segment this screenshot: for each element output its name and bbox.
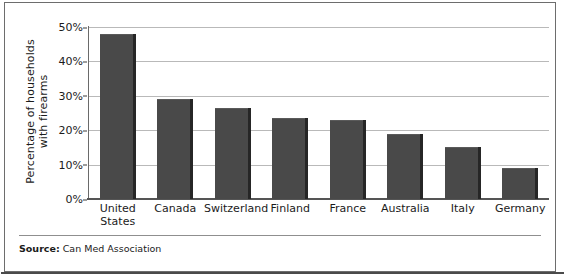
bar <box>387 134 423 199</box>
bar <box>157 99 193 199</box>
gridline <box>89 61 549 62</box>
y-axis-tick-mark <box>83 61 87 62</box>
x-axis-category-label: Italy <box>434 203 492 216</box>
source-text: Can Med Association <box>63 243 162 254</box>
y-axis-tick-label: 40% <box>59 55 83 68</box>
x-axis-category-label: France <box>319 203 377 216</box>
x-axis-category-label: Canada <box>147 203 205 216</box>
footer-rule <box>1 272 564 274</box>
y-axis-tick-mark <box>83 27 87 28</box>
bar <box>445 147 481 199</box>
y-axis-tick-label: 20% <box>59 124 83 137</box>
y-axis-tick-label: 0% <box>66 193 83 206</box>
x-axis-category-label: Switzerland <box>204 203 262 216</box>
x-axis-category-label: Finland <box>262 203 320 216</box>
y-axis-tick-mark <box>83 165 87 166</box>
plot-area: United StatesCanadaSwitzerlandFinlandFra… <box>89 27 549 199</box>
gridline <box>89 96 549 97</box>
y-axis-tick-mark <box>83 96 87 97</box>
bar <box>215 108 251 199</box>
x-axis-category-label: United States <box>89 203 147 228</box>
source-label: Source: <box>19 243 60 254</box>
bar <box>100 34 136 199</box>
source-divider <box>19 235 541 236</box>
source-note: Source:Can Med Association <box>19 243 161 254</box>
y-axis-tick-label: 10% <box>59 158 83 171</box>
y-axis-line <box>88 26 89 200</box>
y-axis-tick-label: 30% <box>59 89 83 102</box>
figure-container: Percentage of households with firearms 0… <box>4 2 556 272</box>
y-axis-tick-label: 50% <box>59 21 83 34</box>
bar <box>502 168 538 199</box>
y-axis-tick-mark <box>83 130 87 131</box>
x-axis-category-label: Australia <box>377 203 435 216</box>
y-axis-tick-labels: 0%10%20%30%40%50% <box>43 3 87 231</box>
bar <box>330 120 366 199</box>
gridline <box>89 27 549 28</box>
bar-chart: Percentage of households with firearms 0… <box>5 3 557 231</box>
x-axis-category-label: Germany <box>492 203 550 216</box>
bar <box>272 118 308 199</box>
